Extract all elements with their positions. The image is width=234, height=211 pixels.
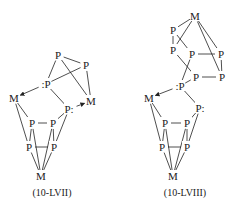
bond-line: [185, 80, 191, 83]
bond-line: [16, 104, 27, 142]
bond-line: [50, 88, 65, 104]
phosphorus-atom-label: P: [83, 59, 89, 71]
structure-caption: (10-LVII): [32, 187, 71, 199]
phosphorus-atom-label: P: [162, 117, 168, 129]
phosphorus-atom-label: :P: [175, 80, 184, 92]
phosphorus-atom-label: P: [159, 141, 165, 153]
bond-line: [64, 57, 81, 63]
phosphorus-atom-label: :P: [41, 78, 50, 90]
bond-line: [33, 129, 40, 170]
dative-bond-arrow: [20, 87, 38, 95]
phosphorus-atom-label: P: [51, 141, 57, 153]
structure-10-LVIII: MPPPPPP:PMP:PPPPM(10-LVIII): [144, 10, 227, 199]
dative-bond-arrow: [156, 89, 173, 96]
phosphorus-atom-label: P: [184, 117, 190, 129]
bond-line: [178, 19, 190, 27]
structure-caption: (10-LVIII): [164, 187, 206, 199]
phosphorus-atom-label: P: [193, 71, 199, 83]
metal-atom-label: M: [36, 170, 46, 182]
dative-bond-arrow: [77, 103, 85, 106]
bond-line: [163, 129, 165, 141]
phosphorus-atom-label: P: [50, 117, 56, 129]
bond-line: [48, 61, 55, 79]
bond-line: [151, 104, 161, 141]
phosphorus-atom-label: P: [218, 48, 224, 60]
structure-10-LVII: PP:PMMP:PPPPM(10-LVII): [9, 49, 96, 199]
bond-line: [51, 68, 80, 82]
phosphorus-atom-label: P: [219, 71, 225, 83]
phosphorus-atom-label: P:: [195, 102, 204, 114]
bond-line: [182, 60, 190, 81]
metal-atom-label: M: [168, 170, 178, 182]
bond-line: [176, 21, 191, 45]
phosphorus-atom-label: P: [29, 117, 35, 129]
metal-atom-label: M: [144, 92, 154, 104]
phosphorus-atom-label: P: [189, 48, 195, 60]
metal-atom-label: M: [190, 10, 200, 22]
bond-line: [30, 129, 32, 141]
bond-line: [87, 71, 90, 95]
phosphorus-atom-label: P: [170, 24, 176, 36]
phosphorus-atom-label: P:: [64, 103, 73, 115]
bond-line: [53, 129, 54, 141]
phosphorus-atom-label: P: [184, 141, 190, 153]
phosphorus-metal-cluster-diagram: PP:PMMP:PPPPM(10-LVII) MPPPPPP:PMP:PPPPM…: [0, 0, 234, 211]
phosphorus-atom-label: P: [55, 49, 61, 61]
metal-atom-label: M: [9, 92, 19, 104]
bond-line: [184, 90, 196, 103]
metal-atom-label: M: [86, 95, 96, 107]
phosphorus-atom-label: P: [170, 44, 176, 56]
phosphorus-atom-label: P: [26, 141, 32, 153]
